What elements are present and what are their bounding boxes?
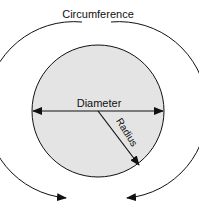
diameter-label: Diameter	[77, 97, 122, 109]
circle-diagram: Circumference Diameter Radius	[0, 0, 199, 209]
circumference-label: Circumference	[62, 8, 134, 20]
